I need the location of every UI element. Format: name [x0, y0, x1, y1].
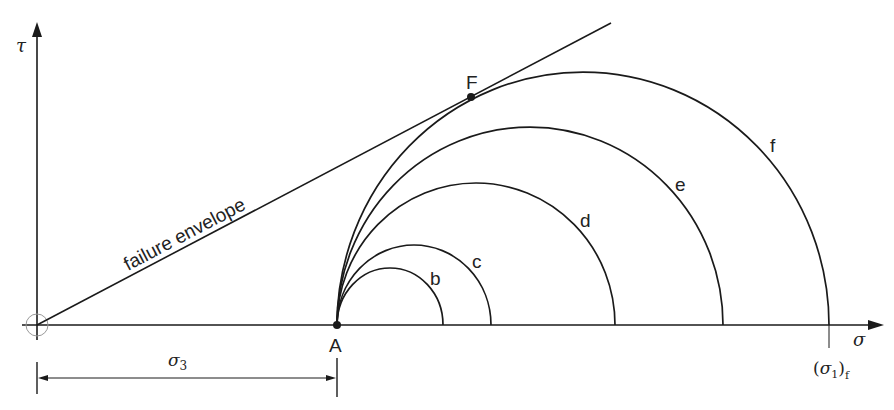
point-f-label: F [466, 72, 478, 93]
failure-envelope: failure envelope [37, 23, 611, 325]
point-a: A [329, 321, 342, 356]
mohr-circle-diagram: τ σ failure envelope b c d e f A F [0, 0, 894, 410]
dimension-left-arrow-icon [38, 375, 48, 381]
sigma1-failure-marker: (σ1)f [813, 325, 850, 382]
sigma-axis: σ [22, 320, 884, 350]
circle-f-label: f [770, 135, 776, 156]
mohr-circles: b c d e f [337, 72, 829, 325]
tau-axis-arrow-icon [32, 22, 42, 37]
dimension-right-arrow-icon [326, 375, 336, 381]
sigma3-label: σ3 [168, 350, 187, 373]
sigma1-failure-label: (σ1)f [813, 358, 850, 382]
circle-e-label: e [675, 174, 686, 195]
circle-e [337, 127, 723, 325]
sigma-axis-arrow-icon [868, 320, 884, 330]
circle-c-label: c [472, 251, 482, 272]
tau-axis: τ [16, 22, 42, 340]
point-a-label: A [329, 335, 342, 356]
failure-envelope-label: failure envelope [120, 194, 249, 275]
circle-d-label: d [580, 210, 591, 231]
sigma-axis-label: σ [853, 329, 866, 350]
sigma3-dimension: σ3 [37, 350, 337, 397]
circle-b-label: b [430, 268, 441, 289]
tau-axis-label: τ [16, 35, 27, 56]
circle-c [337, 245, 491, 325]
circle-f [337, 72, 829, 325]
